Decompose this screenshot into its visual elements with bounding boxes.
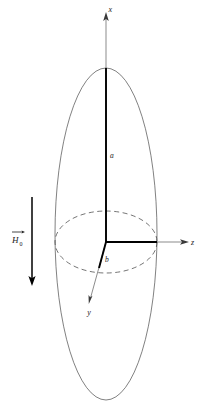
- field-label-subscript: 0: [20, 241, 23, 247]
- figure-container: x z y a b H 0: [0, 0, 201, 419]
- axis-y-arrowhead: [89, 295, 93, 304]
- axis-z-label: z: [190, 238, 195, 247]
- semi-axis-a-label: a: [110, 151, 114, 160]
- semi-axis-b-label: b: [105, 255, 109, 264]
- field-label-H: H: [11, 235, 19, 245]
- field-label-group: H 0: [11, 230, 25, 246]
- spheroid-diagram: x z y a b H 0: [0, 0, 201, 419]
- axis-x-label: x: [108, 5, 113, 14]
- axis-y-label: y: [86, 308, 91, 317]
